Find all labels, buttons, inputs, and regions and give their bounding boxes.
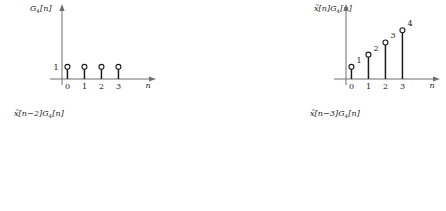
- stem-marker: [65, 64, 70, 69]
- plot-area: n02132431: [296, 105, 446, 211]
- x-tick-label: 1: [82, 82, 87, 91]
- stem-plot-figure: G4[n]n01231x̃[n]G4[n]n01122334x̃[n−1]G4[…: [0, 0, 446, 211]
- x-tick-label: 3: [116, 82, 121, 91]
- y-axis-value-label: 1: [53, 63, 58, 72]
- stem-marker: [99, 64, 104, 69]
- x-tick-label: 2: [99, 82, 104, 91]
- stem-marker: [82, 64, 87, 69]
- plot-area: n03142132: [0, 105, 148, 211]
- stem-panel: x̃[n]G4[n]n01122334: [148, 0, 296, 105]
- stem-panel: x̃[n−1]G4[n]n04112233: [296, 0, 446, 105]
- stem-marker: [116, 64, 121, 69]
- plot-area: n01231: [0, 0, 148, 105]
- x-tick-label: 0: [65, 82, 70, 91]
- stem-panel: x̃[n+1]G4[n]n02132431: [296, 105, 446, 211]
- plot-area: n02132431: [148, 105, 296, 211]
- plot-area: n04112233: [296, 0, 446, 105]
- stem-panel: x̃[n−3]G4[n]n02132431: [148, 105, 296, 211]
- stem-panel: x̃[n−2]G4[n]n03142132: [0, 105, 148, 211]
- plot-area: n01122334: [148, 0, 296, 105]
- stem-panel: G4[n]n01231: [0, 0, 148, 105]
